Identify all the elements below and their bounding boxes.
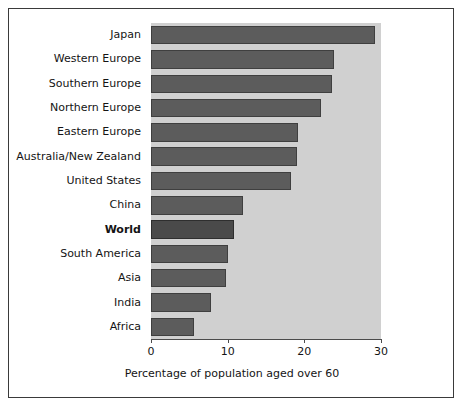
bar [151,99,321,117]
bar-row [151,196,381,214]
x-axis-line [151,339,381,340]
y-axis-label: South America [60,248,141,259]
bar [151,50,334,68]
y-axis-label: Australia/New Zealand [16,151,141,162]
bar [151,293,211,311]
x-axis-tick-label: 10 [221,345,235,358]
bar-row [151,172,381,190]
x-axis-tick [381,339,382,343]
bar-row [151,99,381,117]
plot-area [151,23,381,339]
y-axis-label: United States [67,175,142,186]
bar [151,147,297,165]
y-axis-label: Africa [110,321,141,332]
y-axis-label: Western Europe [54,53,141,64]
bar [151,172,291,190]
bar-row [151,220,381,238]
x-axis-title: Percentage of population aged over 60 [9,367,455,380]
x-axis-tick-label: 0 [148,345,155,358]
bar [151,318,194,336]
bar-row [151,269,381,287]
bar [151,26,375,44]
x-axis-tick-label: 20 [297,345,311,358]
bar-row [151,123,381,141]
y-axis-label: Southern Europe [49,78,141,89]
bar [151,123,298,141]
bar-row [151,245,381,263]
y-axis-label: India [114,297,141,308]
y-axis-label: Northern Europe [50,102,141,113]
bar-row [151,50,381,68]
x-axis-tick [151,339,152,343]
bar [151,245,228,263]
bar-row [151,293,381,311]
bar [151,269,226,287]
x-axis-tick [228,339,229,343]
bar [151,75,332,93]
x-axis-tick-label: 30 [374,345,388,358]
y-axis-label: China [110,199,141,210]
y-axis-label: World [105,224,141,235]
bar-row [151,75,381,93]
bar-row [151,318,381,336]
x-axis-tick [304,339,305,343]
bar [151,220,234,238]
y-axis-label: Japan [110,29,141,40]
bar-row [151,147,381,165]
chart-figure: JapanWestern EuropeSouthern EuropeNorthe… [8,8,454,398]
y-axis-label: Eastern Europe [57,126,141,137]
bar [151,196,243,214]
y-axis-label: Asia [118,272,141,283]
bar-row [151,26,381,44]
y-axis-category-labels: JapanWestern EuropeSouthern EuropeNorthe… [9,23,147,339]
